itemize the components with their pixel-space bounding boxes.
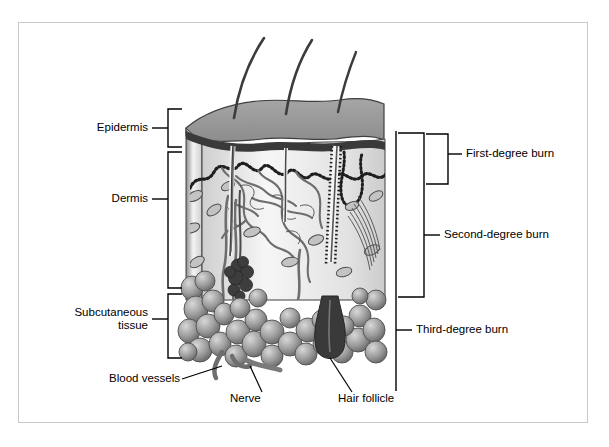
label-second-degree-burn: Second-degree burn <box>444 228 549 241</box>
label-dermis: Dermis <box>38 192 148 205</box>
diagram-frame <box>18 22 588 423</box>
label-nerve: Nerve <box>230 392 261 405</box>
label-subcutaneous-tissue: Subcutaneous tissue <box>28 306 148 332</box>
label-epidermis: Epidermis <box>38 121 148 134</box>
label-third-degree-burn: Third-degree burn <box>416 323 508 336</box>
label-hair-follicle: Hair follicle <box>338 392 394 405</box>
label-first-degree-burn: First-degree burn <box>466 147 554 160</box>
label-blood-vessels: Blood vessels <box>88 372 180 385</box>
